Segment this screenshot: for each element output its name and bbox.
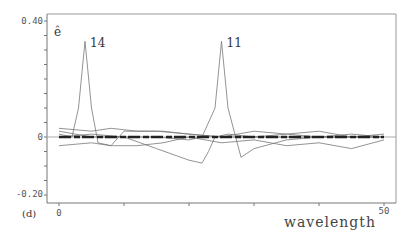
x-axis-label: wavelength bbox=[284, 214, 376, 230]
x-tick-end: 50 bbox=[379, 206, 390, 216]
x-tick-start: 0 bbox=[56, 208, 61, 218]
y-axis-label: ê bbox=[54, 25, 61, 39]
series-line-14 bbox=[59, 41, 384, 145]
peak-label-14: 14 bbox=[90, 36, 106, 50]
panel-label: (d) bbox=[22, 208, 36, 219]
series-line-11 bbox=[59, 41, 384, 157]
peak-annotations: 1411 bbox=[90, 36, 242, 50]
y-tick-bottom: -0.20 bbox=[16, 189, 43, 199]
peak-label-11: 11 bbox=[227, 36, 242, 50]
data-series bbox=[59, 41, 384, 163]
chart: 1411 0.40 0 -0.20 0 50 (d) ê wavelength bbox=[0, 0, 415, 240]
y-tick-top: 0.40 bbox=[21, 16, 43, 26]
y-tick-zero: 0 bbox=[38, 132, 43, 142]
series-line-band-lower bbox=[59, 137, 384, 149]
